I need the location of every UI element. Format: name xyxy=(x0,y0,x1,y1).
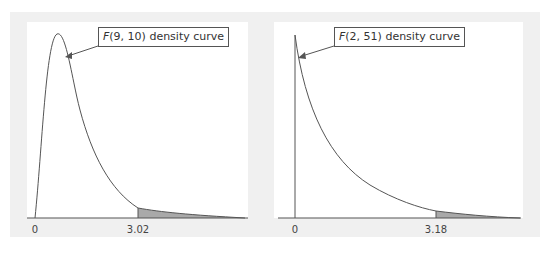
left-callout-text: (9, 10) density curve xyxy=(109,30,224,43)
right-tick-critical: 3.18 xyxy=(425,224,447,235)
right-density-curve xyxy=(295,35,520,218)
left-density-curve xyxy=(35,34,245,218)
left-tick-zero: 0 xyxy=(32,224,38,235)
right-tick-zero: 0 xyxy=(292,224,298,235)
left-shaded-tail xyxy=(138,208,245,218)
density-plots xyxy=(0,0,549,261)
right-callout-text: (2, 51) density curve xyxy=(345,30,460,43)
right-callout-label: F(2, 51) density curve xyxy=(334,27,465,47)
left-callout-arrow xyxy=(68,46,98,56)
right-arrowhead-icon xyxy=(298,52,306,59)
left-tick-critical: 3.02 xyxy=(127,224,149,235)
right-chart xyxy=(278,35,521,218)
left-chart xyxy=(27,34,248,218)
left-callout-label: F(9, 10) density curve xyxy=(98,27,229,47)
right-callout-arrow xyxy=(302,46,334,56)
left-arrowhead-icon xyxy=(65,52,72,59)
